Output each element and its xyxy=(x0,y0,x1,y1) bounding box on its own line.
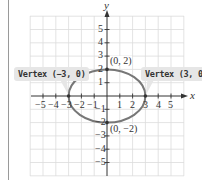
x-tick-label: −3 xyxy=(61,100,72,110)
y-tick-label: −3 xyxy=(95,130,106,140)
vertex-right-label: Vertex (3, 0) xyxy=(141,67,202,81)
y-axis-label: y xyxy=(104,0,109,11)
bottom-point-label: (0, −2) xyxy=(110,124,137,134)
x-tick-label: 2 xyxy=(130,100,135,110)
top-point-label: (0, 2) xyxy=(110,56,132,66)
y-tick-label: −1 xyxy=(95,104,106,114)
x-tick-label: −5 xyxy=(35,100,46,110)
y-axis-arrow-icon xyxy=(105,10,110,17)
y-tick-label: 5 xyxy=(98,24,103,34)
x-tick-label: −4 xyxy=(48,100,59,110)
x-tick-label: 3 xyxy=(143,100,148,110)
y-tick-label: 1 xyxy=(98,77,103,87)
axes xyxy=(31,14,184,176)
y-tick-label: 4 xyxy=(98,37,103,47)
y-tick-label: −2 xyxy=(95,117,106,127)
x-tick-label: −2 xyxy=(74,100,85,110)
x-tick-label: 4 xyxy=(156,100,161,110)
y-tick-label: 2 xyxy=(98,64,103,74)
y-tick-label: −5 xyxy=(95,157,106,167)
x-tick-label: 5 xyxy=(168,100,173,110)
y-tick-label: −4 xyxy=(95,144,106,154)
x-axis-label: x xyxy=(190,90,195,101)
vertex-left-label: Vertex (−3, 0) xyxy=(14,67,89,81)
x-tick-label: 1 xyxy=(117,100,122,110)
y-tick-label: 3 xyxy=(98,50,103,60)
x-axis-arrow-icon xyxy=(181,94,188,99)
